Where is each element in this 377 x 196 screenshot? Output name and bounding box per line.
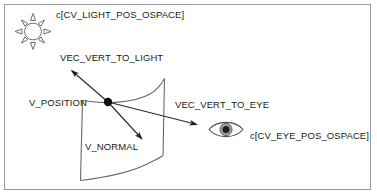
label-eye-position: c[CV_EYE_POS_OSPACE] (250, 130, 369, 141)
label-v-normal: V_NORMAL (85, 141, 138, 152)
label-vec-vert-to-eye: VEC_VERT_TO_EYE (175, 99, 269, 110)
label-light-position: c[CV_LIGHT_POS_OSPACE] (56, 9, 184, 20)
label-vec-vert-to-light: VEC_VERT_TO_LIGHT (60, 52, 163, 63)
diagram-root: c[CV_LIGHT_POS_OSPACE] VEC_VERT_TO_LIGHT… (0, 0, 377, 196)
sun-icon (15, 14, 51, 50)
eye-icon (209, 122, 243, 136)
arrow-v-normal (108, 102, 142, 139)
vertex-dot (104, 98, 112, 106)
label-v-position: V_POSITION (29, 97, 87, 108)
curved-surface-patch (81, 79, 165, 181)
